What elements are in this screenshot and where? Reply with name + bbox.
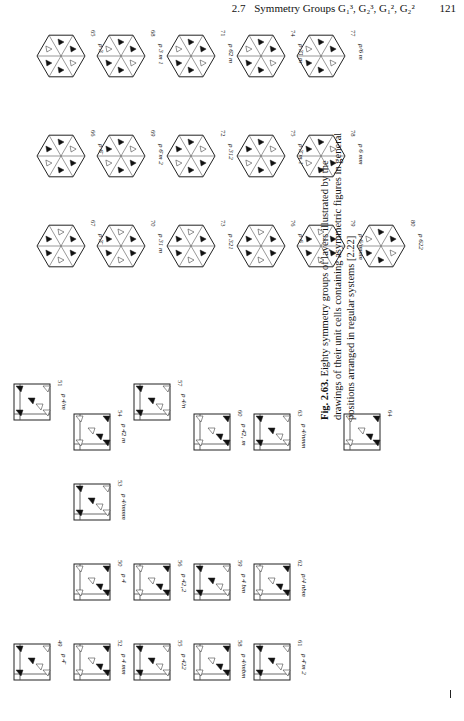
hexagon-cell-drawing <box>35 130 87 182</box>
figure-number: 69 <box>150 130 157 137</box>
page-number: 121 <box>440 2 457 14</box>
figure-number: 51 <box>57 380 64 387</box>
square-figure: 54p 4̄2 m <box>70 410 114 454</box>
square-cell-drawing <box>70 560 114 604</box>
hexagon-cell-drawing <box>95 30 147 82</box>
figure-number: 63 <box>297 410 304 417</box>
group-label: p/6 m <box>357 44 365 60</box>
hexagon-cell-drawing <box>165 220 217 272</box>
figure-number: 55 <box>177 640 184 647</box>
group-label: p 4̄2₁ m <box>240 424 248 446</box>
figure-number: 60 <box>237 410 244 417</box>
group-label: p 3 m 1 <box>157 44 165 65</box>
square-cell-drawing <box>250 560 294 604</box>
square-figure: 55p 422 <box>130 640 174 684</box>
group-label: p 4 bm <box>240 574 248 593</box>
running-header: 2.7 Symmetry Groups G₁³, G₂³, G₁², G₂² 1… <box>232 2 456 14</box>
square-figure: 51p 4/m <box>10 380 54 424</box>
hexagon-cell-drawing <box>355 220 407 272</box>
hexagon-cell-drawing <box>165 130 217 182</box>
square-cell-drawing <box>190 410 234 454</box>
square-figure: 49p 4̄ <box>10 640 54 684</box>
figure-number: 50 <box>117 560 124 567</box>
hexagon-cell-drawing <box>95 220 147 272</box>
hexagon-figure: 72p 312 <box>165 130 217 182</box>
hexagon-cell-drawing <box>165 30 217 82</box>
square-figure: 57p 4/n <box>130 380 174 424</box>
square-figure: 63p 4/nmm <box>250 410 294 454</box>
group-label: p 6̄2 m <box>227 44 235 63</box>
square-cell-drawing <box>10 640 54 684</box>
square-figure: 56p 42₁2 <box>130 560 174 604</box>
square-cell-drawing <box>190 560 234 604</box>
square-cell-drawing <box>130 380 174 424</box>
square-cell-drawing <box>10 380 54 424</box>
hexagon-cell-drawing <box>95 130 147 182</box>
figure-number: 62 <box>297 560 304 567</box>
square-figure: 62p/4 nbm <box>250 560 294 604</box>
dash-mark <box>450 690 451 698</box>
hexagon-cell-drawing <box>295 30 347 82</box>
group-label: p 4 mm <box>120 654 128 675</box>
figure-number: 58 <box>237 640 244 647</box>
square-figure: 61p 4̄ m 2 <box>250 640 294 684</box>
group-label: p 312 <box>227 144 235 160</box>
square-cell-drawing <box>130 560 174 604</box>
hexagon-cell-drawing <box>35 30 87 82</box>
figure-number: 80 <box>410 220 417 227</box>
hexagon-cell-drawing <box>235 30 287 82</box>
figure-number: 59 <box>237 560 244 567</box>
figure-caption: Fig. 2.63. Eighty symmetry groups of lay… <box>318 120 357 420</box>
square-cell-drawing <box>250 640 294 684</box>
square-figure: 58p 4/mbm <box>190 640 234 684</box>
group-label: p 4/n <box>180 394 188 408</box>
figure-number: 54 <box>117 410 124 417</box>
group-label: p 6 mm <box>357 144 365 165</box>
group-label: p/4 nbm <box>300 574 308 597</box>
figure-number: Fig. 2.63. <box>319 379 330 420</box>
figure-number: 70 <box>150 220 157 227</box>
figure-number: 77 <box>350 30 357 37</box>
square-cell-drawing <box>250 410 294 454</box>
square-figure: 52p 4 mm <box>70 640 114 684</box>
figure-number: 73 <box>220 220 227 227</box>
group-label: p 4/mbm <box>240 654 248 678</box>
figure-number: 64 <box>387 410 394 417</box>
caption-text: Eighty symmetry groups of layers illustr… <box>319 133 356 420</box>
group-label: p 4̄2 m <box>120 424 128 443</box>
square-figure: 50p 4 <box>70 560 114 604</box>
hexagon-cell-drawing <box>235 220 287 272</box>
hexagon-figure: 75p 3̄ m 1 <box>235 130 287 182</box>
group-label: p 6̄ m 2 <box>157 144 165 165</box>
hexagon-figure: 66p 6̄ <box>35 130 87 182</box>
hexagon-figure: 71p 6̄2 m <box>165 30 217 82</box>
square-figure: 53p 4/mmm <box>70 480 114 524</box>
hexagon-figure: 70p 31 m <box>95 220 147 272</box>
group-label: p 422 <box>180 654 188 670</box>
figure-number: 57 <box>177 380 184 387</box>
square-cell-drawing <box>70 410 114 454</box>
hexagon-figure: 68p 3 m 1 <box>95 30 147 82</box>
group-label: p 4/m <box>60 394 68 410</box>
group-label: p 4̄ <box>60 654 68 663</box>
figure-number: 61 <box>297 640 304 647</box>
figure-number: 71 <box>220 30 227 37</box>
group-label: p 4 <box>120 574 128 583</box>
group-label: p 622 <box>417 234 425 250</box>
section-number: 2.7 <box>232 2 246 14</box>
square-cell-drawing <box>190 640 234 684</box>
hexagon-figure: 67p 3̄ <box>35 220 87 272</box>
figure-number: 49 <box>57 640 64 647</box>
square-figure: 59p 4 bm <box>190 560 234 604</box>
hexagon-figure: 73p 321 <box>165 220 217 272</box>
section-title: Symmetry Groups G₁³, G₂³, G₁², G₂² <box>254 2 415 14</box>
group-label: p 31 m <box>157 234 165 253</box>
group-label: p 4̄ m 2 <box>300 654 308 675</box>
figure-number: 56 <box>177 560 184 567</box>
square-cell-drawing <box>70 640 114 684</box>
hexagon-figure: 74p 3̄1 m <box>235 30 287 82</box>
hexagon-figure: 65p 3 <box>35 30 87 82</box>
group-label: p 4/mmm <box>120 494 128 520</box>
square-figure: 60p 4̄2₁ m <box>190 410 234 454</box>
figure-number: 53 <box>117 480 124 487</box>
